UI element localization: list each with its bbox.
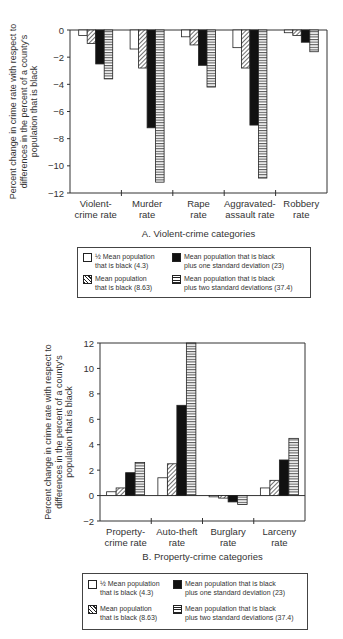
- x-category-label: crime rate: [105, 537, 147, 548]
- bar-hatch: [167, 464, 177, 496]
- legend-swatch-black-icon: [172, 253, 181, 262]
- bar-black: [228, 496, 238, 502]
- legend-label: Mean populationthat is black (8.63): [95, 275, 152, 292]
- x-category-label: Auto-theft: [156, 526, 198, 537]
- x-category-label: Rape: [187, 198, 210, 209]
- property-crime-chart: 121086420−2Property-crime rateAuto-theft…: [43, 338, 305, 549]
- y-axis-label: Percent change in crime rate with respec…: [8, 24, 18, 200]
- bar-black: [96, 30, 105, 64]
- bar-white: [233, 30, 242, 48]
- x-category-label: rate: [190, 209, 206, 220]
- x-category-label: rate: [139, 209, 155, 220]
- y-axis-label: population that is black: [64, 386, 74, 478]
- x-category-label: crime rate: [75, 209, 117, 220]
- bar-hatch: [139, 30, 148, 68]
- x-category-label: rate: [271, 537, 287, 548]
- bar-hatch: [116, 488, 126, 496]
- bar-lines: [207, 30, 216, 87]
- x-category-label: assault rate: [225, 209, 274, 220]
- bar-black: [250, 30, 259, 125]
- bar-white: [260, 488, 270, 496]
- y-tick-label: 12: [83, 338, 94, 349]
- bar-lines: [258, 30, 267, 178]
- bar-white: [130, 30, 139, 49]
- legend-swatch-lines-icon: [172, 275, 181, 284]
- legend-swatch-hatch-icon: [88, 605, 97, 614]
- legend-label: ½ Mean populationthat is black (4.3): [100, 580, 160, 597]
- y-tick-label: 8: [89, 388, 94, 399]
- x-category-label: Aggravated-: [224, 198, 276, 209]
- y-tick-label: −6: [53, 106, 64, 117]
- y-tick-label: −2: [83, 516, 94, 527]
- bar-white: [182, 30, 191, 37]
- bar-lines: [186, 343, 196, 496]
- y-tick-label: 2: [89, 465, 94, 476]
- x-category-label: Robbery: [283, 198, 319, 209]
- y-tick-label: −2: [53, 52, 64, 63]
- x-category-label: rate: [220, 537, 236, 548]
- bar-black: [177, 405, 187, 495]
- x-category-label: Burglary: [210, 526, 246, 537]
- y-axis-label: Percent change in crime rate with respec…: [43, 344, 53, 520]
- legend-swatch-white-icon: [83, 253, 92, 262]
- bar-lines: [135, 463, 145, 496]
- chart-b-caption: B. Property-crime categories: [100, 551, 305, 562]
- bar-hatch: [219, 496, 229, 499]
- bar-lines: [310, 30, 319, 52]
- legend-b: ½ Mean populationthat is black (4.3)Mean…: [82, 573, 308, 630]
- legend-label: Mean population that is blackplus two st…: [185, 605, 294, 622]
- x-category-label: rate: [169, 537, 185, 548]
- y-tick-label: 10: [83, 363, 94, 374]
- chart-a-caption: A. Violent-crime categories: [70, 228, 327, 239]
- y-tick-label: −4: [53, 79, 64, 90]
- legend-a: ½ Mean populationthat is black (4.3)Mean…: [77, 247, 311, 298]
- bar-white: [158, 478, 168, 496]
- bar-hatch: [190, 30, 199, 45]
- x-category-label: Murder: [132, 198, 162, 209]
- legend-swatch-lines-icon: [173, 605, 182, 614]
- bar-lines: [104, 30, 113, 79]
- y-tick-label: 4: [89, 439, 94, 450]
- x-category-label: Larceny: [262, 526, 296, 537]
- legend-label: Mean population that is blackplus one st…: [185, 580, 285, 597]
- bar-hatch: [293, 30, 302, 35]
- y-tick-label: 0: [59, 25, 64, 36]
- legend-label: Mean populationthat is black (8.63): [100, 605, 157, 622]
- bar-white: [284, 30, 293, 33]
- bar-black: [301, 30, 310, 42]
- bar-black: [126, 473, 136, 496]
- legend-swatch-white-icon: [88, 580, 97, 589]
- y-axis-label: differences in the percent of a county's: [54, 355, 64, 509]
- x-category-label: Violent-: [80, 198, 112, 209]
- legend-swatch-hatch-icon: [83, 275, 92, 284]
- y-tick-label: −12: [48, 188, 64, 199]
- bar-lines: [156, 30, 165, 182]
- bar-black: [199, 30, 208, 65]
- charts-canvas: 0−2−4−6−8−10−12Violent-crime rateMurderr…: [0, 0, 343, 639]
- bar-hatch: [241, 30, 250, 68]
- violent-crime-chart: 0−2−4−6−8−10−12Violent-crime rateMurderr…: [8, 24, 327, 220]
- bar-white: [79, 30, 88, 35]
- bar-white: [209, 496, 219, 497]
- y-tick-label: 0: [89, 490, 94, 501]
- bar-lines: [289, 438, 299, 495]
- x-category-label: Property-: [106, 526, 145, 537]
- y-axis-label: differences in the percent of a county's: [19, 34, 29, 188]
- bar-white: [107, 492, 117, 496]
- x-category-label: rate: [293, 209, 309, 220]
- legend-label: ½ Mean populationthat is black (4.3): [95, 253, 155, 270]
- bar-lines: [238, 496, 248, 505]
- bar-hatch: [87, 30, 96, 44]
- legend-swatch-black-icon: [173, 580, 182, 589]
- bar-black: [147, 30, 156, 128]
- y-axis-label: population that is black: [29, 65, 39, 157]
- y-tick-label: 6: [89, 414, 94, 425]
- bar-hatch: [270, 480, 280, 495]
- bar-black: [279, 460, 289, 496]
- legend-label: Mean population that is blackplus two st…: [184, 275, 293, 292]
- legend-label: Mean population that is blackplus one st…: [184, 253, 284, 270]
- y-tick-label: −10: [48, 160, 64, 171]
- y-tick-label: −8: [53, 133, 64, 144]
